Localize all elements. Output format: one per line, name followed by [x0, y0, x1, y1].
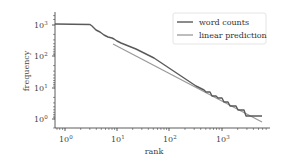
y-major-ticks: [52, 25, 55, 119]
x-tick-label-100: 102: [163, 134, 177, 144]
legend: word counts linear prediction: [173, 13, 267, 44]
x-major-ticks: [65, 128, 222, 131]
chart: 103 102 101 100 100 101 102 103 rank fre…: [0, 0, 293, 163]
legend-label-word-counts: word counts: [199, 18, 249, 27]
y-axis-label: frequency: [22, 50, 31, 91]
x-tick-label-10: 101: [111, 134, 125, 144]
y-tick-label-1000: 103: [34, 20, 48, 30]
y-tick-label-100: 102: [34, 51, 48, 61]
y-tick-label-1: 100: [34, 114, 48, 124]
legend-label-linear-prediction: linear prediction: [199, 31, 267, 40]
y-tick-label-10: 101: [34, 83, 48, 93]
x-tick-label-1000: 103: [216, 134, 230, 144]
x-tick-label-1: 100: [59, 134, 73, 144]
x-axis-label: rank: [145, 147, 164, 156]
